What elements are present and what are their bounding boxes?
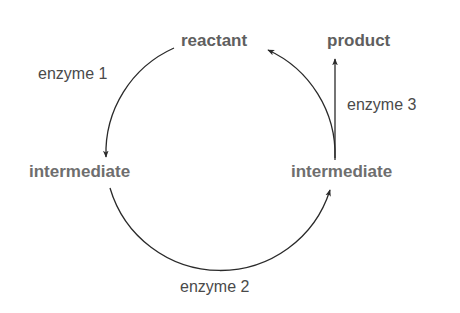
label-enzyme-1: enzyme 1 [38,66,107,82]
node-intermediate-left: intermediate [29,163,130,180]
label-enzyme-3: enzyme 3 [347,97,416,113]
arrow-intermediate-right-to-reactant [268,50,335,158]
node-reactant: reactant [181,32,247,49]
node-product: product [327,32,390,49]
arrow-reactant-to-intermediate-left [106,48,174,157]
node-intermediate-right: intermediate [291,163,392,180]
label-enzyme-2: enzyme 2 [180,279,249,295]
arrow-intermediate-left-to-intermediate-right [110,188,330,270]
metabolic-cycle-diagram: reactant product intermediate intermedia… [0,0,460,313]
